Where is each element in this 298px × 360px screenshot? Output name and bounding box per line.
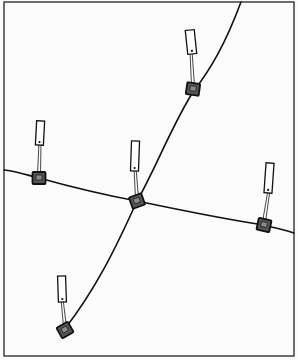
tag-string [41, 142, 42, 175]
tag-label-icon [264, 163, 274, 193]
box-node-icon [256, 218, 271, 232]
tag-label-icon [130, 141, 139, 171]
box-node-icon [186, 82, 201, 96]
network-diagram [0, 0, 298, 360]
tag-label-icon [185, 30, 196, 55]
box-node-icon [33, 172, 46, 184]
tag-label-icon [58, 276, 67, 302]
diagram-canvas [0, 0, 298, 360]
tag-label-icon [35, 121, 44, 145]
